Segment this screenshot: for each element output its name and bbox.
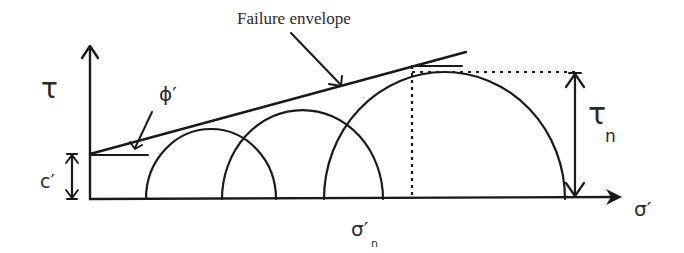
sigma-n-label: σ′ [351,217,369,241]
envelope-line [90,52,466,154]
phi-pointer-line [135,112,152,148]
sigma-n-subscript: n [371,237,378,250]
envelope-label-pointer [291,33,342,86]
mohr-circle-1 [146,129,276,199]
dotted-guides [412,66,575,199]
failure-envelope [90,52,466,154]
failure-envelope-label: Failure envelope [237,9,351,28]
tau-n-subscript: n [605,126,616,146]
cohesion-label: c′ [40,170,55,192]
mohr-circles [146,72,565,199]
tau-axis-label: τ [41,72,58,105]
sigma-axis-label: σ′ [634,197,652,221]
phi-label: ϕ′ [159,82,177,106]
tau-n-label-main: τ [588,96,606,131]
x-axis [90,197,618,199]
axes [82,46,622,205]
envelope-pointer-line [291,33,341,85]
phi-angle-marker [90,112,152,155]
cohesion-arrow [66,154,78,199]
mohr-circle-2 [222,110,383,199]
mohr-coulomb-diagram: Failure envelope τ ϕ′ c′ τ n σ′ σ′ n [0,0,684,253]
tau-n-label: τ [588,96,606,131]
tau-n-arrow [566,73,584,196]
